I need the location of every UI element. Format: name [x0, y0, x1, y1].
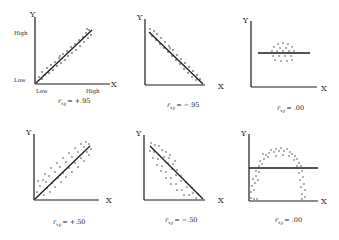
regression-line [149, 32, 203, 84]
y-axis-label: Y [135, 129, 142, 138]
data-points [271, 42, 294, 61]
data-points [250, 147, 305, 199]
x-axis-label: X [106, 196, 112, 205]
panel-positive-50: Y X rxy= +.50 [25, 128, 112, 227]
x-axis-label: X [218, 82, 224, 91]
correlation-label: rxy= +.95 [58, 97, 91, 106]
x-high-label: High [86, 88, 100, 95]
correlation-label: rxy= −.95 [167, 101, 200, 110]
y-axis-label: Y [136, 13, 143, 22]
x-axis-label: X [218, 196, 224, 205]
panel-zero-curvilinear: Y X rxy= .00 [240, 129, 327, 225]
x-low-label: Low [36, 88, 48, 94]
x-axis-label: X [321, 84, 327, 93]
data-points [149, 28, 201, 81]
correlation-label: rxy= .00 [277, 104, 304, 113]
panel-negative-95: Y X rxy= −.95 [136, 13, 224, 110]
correlation-label: rxy= .00 [275, 216, 302, 225]
panel-zero-circular: Y X rxy= .00 [242, 16, 327, 113]
correlation-label: rxy= +.50 [53, 218, 86, 227]
x-axis-label: X [111, 80, 117, 89]
y-high-label: High [14, 30, 28, 37]
correlation-scatterplot-figure: Y X High Low Low High rxy= +.95 Y X [0, 0, 339, 240]
y-axis-label: Y [242, 16, 249, 25]
x-axis-label: X [321, 197, 327, 206]
y-axis-label: Y [25, 128, 32, 137]
data-points [38, 28, 92, 80]
data-points [36, 141, 91, 195]
y-axis-label: Y [29, 10, 36, 19]
panel-positive-95: Y X High Low Low High rxy= +.95 [14, 10, 117, 106]
correlation-label: rxy= −.50 [165, 216, 198, 225]
y-axis-label: Y [240, 129, 247, 138]
regression-line [35, 146, 90, 199]
regression-line [150, 146, 203, 199]
panel-negative-50: Y X rxy= −.50 [135, 129, 224, 225]
y-low-label: Low [14, 77, 26, 83]
